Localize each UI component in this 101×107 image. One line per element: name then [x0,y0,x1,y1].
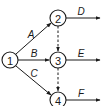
edge-label-f: F [78,88,85,99]
edge-label-b: B [31,48,38,59]
node-1: 1 [2,52,18,68]
node-4-label: 4 [55,95,61,107]
edge-label-d: D [77,6,84,17]
node-2-label: 2 [55,13,61,25]
edge-label-e: E [78,48,85,59]
edge-label-a: A [27,29,35,40]
node-3-label: 3 [55,55,61,67]
node-4: 4 [50,92,66,106]
node-3: 3 [50,52,66,68]
network-diagram: A B C D E F 1 2 3 4 [0,0,101,106]
edge-label-c: C [30,68,38,79]
node-1-label: 1 [7,55,13,67]
node-2: 2 [50,10,66,26]
